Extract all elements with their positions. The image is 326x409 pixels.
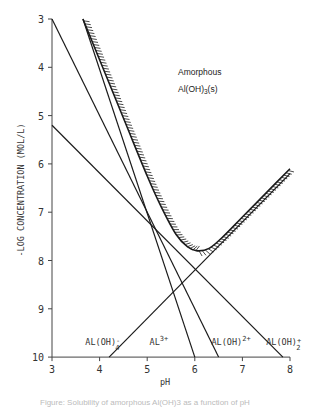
y-tick-label: 5 — [38, 111, 44, 122]
hatch-mark — [208, 249, 213, 252]
hatch-mark — [157, 198, 163, 199]
species-label: AL(OH)-4 — [85, 337, 120, 352]
y-tick-label: 9 — [38, 304, 44, 315]
x-tick-label: 7 — [239, 364, 245, 375]
hatch-mark — [202, 251, 206, 256]
species-label: AL3+ — [150, 335, 169, 347]
y-tick-label: 10 — [32, 352, 44, 363]
solubility-chart: 345678910345678 AL3+AL(OH)2+AL(OH)+2AL(O… — [0, 0, 326, 409]
hatch-mark — [178, 237, 184, 238]
x-tick-label: 4 — [97, 364, 103, 375]
x-tick-label: 3 — [49, 364, 55, 375]
annotation-solid-phase: Al(OH)3(s) — [178, 84, 218, 95]
figure-caption: Figure: Solubility of amorphous Al(OH)3 … — [40, 398, 310, 408]
species-line — [52, 125, 283, 357]
species-label: AL(OH)+2 — [266, 337, 301, 352]
hatch-mark — [288, 171, 294, 172]
species-label: AL(OH)2+ — [211, 335, 250, 347]
hatch-mark — [180, 239, 186, 240]
hatch-mark — [187, 245, 193, 247]
y-tick-label: 8 — [38, 256, 44, 267]
solubility-curve-hatched — [83, 19, 294, 256]
hatch-mark — [199, 251, 202, 256]
hatch-mark — [183, 241, 189, 242]
species-lines — [52, 19, 290, 357]
species-labels: AL3+AL(OH)2+AL(OH)+2AL(OH)-4 — [85, 335, 301, 352]
x-tick-label: 8 — [287, 364, 293, 375]
y-tick-label: 3 — [38, 14, 44, 25]
solubility-curve — [83, 19, 290, 251]
annotation-amorphous: Amorphous — [178, 67, 221, 77]
annotations: Amorphous Al(OH)3(s) — [178, 67, 221, 95]
y-tick-label: 4 — [38, 62, 44, 73]
x-tick-label: 6 — [192, 364, 198, 375]
axes: 345678910345678 — [32, 14, 293, 375]
y-tick-label: 6 — [38, 159, 44, 170]
y-tick-label: 7 — [38, 207, 44, 218]
x-axis-label: pH — [160, 377, 170, 387]
hatch-mark — [185, 243, 191, 245]
hatch-mark — [205, 250, 209, 254]
y-axis-label: -LOG CONCENTRATION (MOL/L) — [16, 123, 26, 256]
x-tick-label: 5 — [144, 364, 150, 375]
